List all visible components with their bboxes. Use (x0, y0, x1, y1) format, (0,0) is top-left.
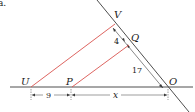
arrowhead-x-left (72, 94, 75, 97)
measure-qo: 17 (132, 66, 142, 75)
segment-pq (72, 45, 129, 87)
arrowhead-q-up (122, 38, 125, 42)
arrowhead-x-right (164, 94, 167, 97)
measure-po: x (113, 90, 118, 100)
point-label-q: Q (131, 32, 139, 43)
measure-up: 9 (46, 91, 51, 100)
geometry-figure: a. U P V Q O 4 17 9 (0, 0, 195, 112)
point-label-o: O (169, 76, 177, 87)
measure-vq: 4 (114, 37, 119, 46)
point-label-u: U (21, 76, 30, 87)
arrowhead-9-right (67, 94, 70, 97)
diagram-canvas: a. U P V Q O 4 17 9 (0, 0, 195, 112)
segment-uv (31, 24, 115, 87)
point-label-v: V (114, 9, 123, 20)
arrowhead-9-left (32, 94, 35, 97)
problem-label: a. (0, 0, 6, 8)
point-label-p: P (65, 76, 73, 87)
